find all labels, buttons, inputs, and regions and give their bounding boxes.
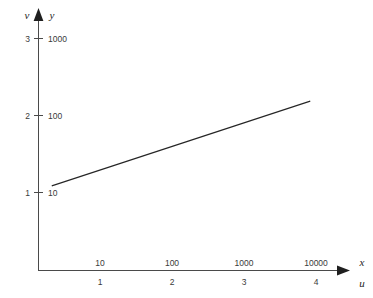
x-tick-label-u-2: 2 [170, 277, 175, 287]
x-tick-label-x-100: 100 [165, 258, 179, 268]
y-tick-label-y-1000: 1000 [48, 34, 67, 44]
x-axis-arrow-icon [337, 266, 350, 276]
y-axis-arrow-icon [34, 8, 44, 21]
y-tick-label-y-10: 10 [48, 188, 58, 198]
x-tick-label-u-4: 4 [314, 277, 319, 287]
x-tick-label-x-10: 10 [95, 258, 105, 268]
y-tick-label-v-3: 3 [25, 34, 30, 44]
x-tick-label-x-1000: 1000 [235, 258, 254, 268]
y-axis-symbol-v: v [25, 9, 30, 21]
x-tick-label-u-3: 3 [242, 277, 247, 287]
x-tick-label-u-1: 1 [98, 277, 103, 287]
y-axis-symbol-y: y [49, 9, 55, 21]
x-axis-symbol-u: u [359, 277, 365, 289]
figure-canvas: 3 2 1 1000 100 10 v y 10 100 1000 10000 … [0, 0, 373, 298]
y-tick-label-y-100: 100 [48, 111, 62, 121]
y-tick-label-v-2: 2 [25, 111, 30, 121]
x-tick-label-x-10000: 10000 [304, 258, 328, 268]
log-log-plot: 3 2 1 1000 100 10 v y 10 100 1000 10000 … [0, 0, 373, 298]
x-axis-symbol-x: x [359, 256, 365, 268]
y-tick-label-v-1: 1 [25, 188, 30, 198]
data-series-line [52, 101, 310, 186]
